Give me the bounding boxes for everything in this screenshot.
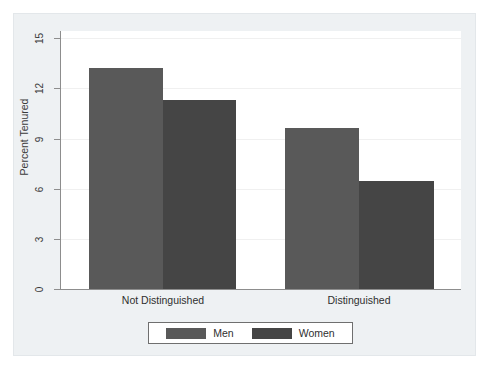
y-tick-label-9: 9 (34, 127, 45, 153)
y-tick-label-12: 12 (34, 76, 45, 102)
x-axis-line (61, 289, 461, 290)
legend-entry-women: Women (243, 327, 344, 339)
y-tick-label-3: 3 (34, 227, 45, 253)
plot-area (61, 31, 461, 290)
bar-women-not-distinguished (163, 100, 236, 290)
x-tick-label-not-distinguished: Not Distinguished (89, 294, 237, 306)
legend-swatch-men (166, 328, 206, 339)
legend-entry-men: Men (157, 327, 242, 339)
bar-women-distinguished (359, 181, 434, 290)
y-tick-label-15: 15 (34, 26, 45, 52)
gridline-15 (61, 38, 461, 39)
legend-swatch-women (252, 328, 292, 339)
legend-label-women: Women (299, 327, 335, 339)
bar-men-distinguished (285, 128, 359, 290)
y-axis-line (60, 31, 61, 290)
x-tick-label-distinguished: Distinguished (285, 294, 433, 306)
bar-men-not-distinguished (89, 68, 163, 290)
y-tick-label-6: 6 (34, 177, 45, 203)
legend: Men Women (148, 322, 353, 344)
y-tick-label-0: 0 (34, 277, 45, 303)
y-axis-title: Percent Tenured (18, 77, 30, 197)
bar-chart-figure: Percent Tenured 15 12 9 6 3 0 Not Distin… (0, 0, 489, 369)
legend-label-men: Men (213, 327, 233, 339)
